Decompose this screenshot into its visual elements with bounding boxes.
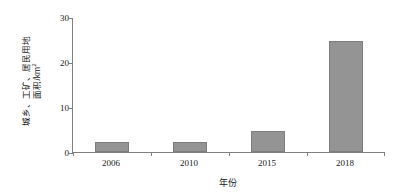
x-axis-title: 年份 [219, 176, 237, 189]
y-tick-label-20: 20 [60, 58, 69, 68]
y-axis-title-line2: 面积/km2 [31, 36, 42, 126]
bar-chart-figure: 城乡、工矿、居民用地 面积/km2 0 10 20 30 [0, 0, 405, 196]
y-tick-label-30: 30 [60, 13, 69, 23]
y-tick-label-0: 0 [65, 148, 70, 158]
y-axis-title-superscript: 2 [30, 63, 36, 66]
x-tick-right-edge [384, 152, 385, 156]
plot-area: 0 10 20 30 [72, 18, 384, 153]
x-tick-boundary-2 [229, 152, 230, 156]
x-tick-label-2006: 2006 [102, 158, 120, 168]
y-axis-title: 城乡、工矿、居民用地 面积/km2 [14, 6, 48, 156]
bar-2015 [251, 131, 285, 152]
bar-2006 [95, 142, 129, 152]
bar-2018 [329, 41, 363, 152]
y-axis-title-units: 面积/km [31, 67, 41, 99]
x-tick-label-2015: 2015 [258, 158, 276, 168]
x-tick-left-edge [73, 152, 74, 156]
x-tick-boundary-3 [307, 152, 308, 156]
y-tick-label-10: 10 [60, 103, 69, 113]
bar-2010 [173, 142, 207, 152]
y-axis-title-text: 城乡、工矿、居民用地 面积/km2 [21, 36, 42, 126]
x-tick-label-2018: 2018 [336, 158, 354, 168]
y-axis-title-line1: 城乡、工矿、居民用地 [21, 36, 31, 126]
x-tick-boundary-1 [151, 152, 152, 156]
x-tick-label-2010: 2010 [180, 158, 198, 168]
